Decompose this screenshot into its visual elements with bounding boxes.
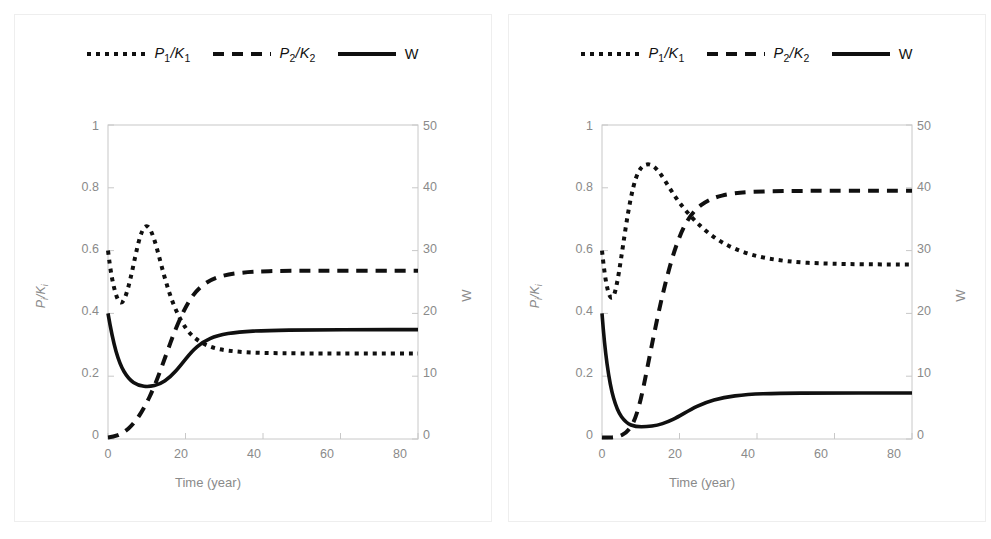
xtick-40: 40: [728, 447, 768, 461]
plot-right: 1 0.8 0.6 0.4 0.2 0 50 40 30 20 10 0 0 2…: [509, 15, 985, 521]
ytick-left-06: 0.6: [555, 242, 593, 256]
ytick-right-50: 50: [917, 119, 957, 133]
series-p2-k2-right: [602, 191, 912, 438]
ytick-right-0: 0: [917, 428, 957, 442]
x-axis-title: Time (year): [175, 475, 241, 490]
xtick-80: 80: [874, 447, 914, 461]
xtick-20: 20: [655, 447, 695, 461]
y-axis-right-title: W: [459, 266, 474, 326]
panel-left: P1/K1 P2/K2 W 1 0.8 0.6 0.4 0.2 0 50 40 …: [14, 14, 492, 522]
series-p1-k1-left: [108, 226, 418, 353]
series-p2-k2-left: [108, 271, 418, 438]
y-axis-left-title: Pi/Ki: [528, 261, 545, 331]
series-p1-k1-right: [602, 164, 912, 297]
xtick-80: 80: [380, 447, 420, 461]
series-w-right: [602, 313, 912, 426]
xtick-20: 20: [161, 447, 201, 461]
y-axis-left-title: Pi/Ki: [34, 261, 51, 331]
y-axis-right-title: W: [953, 266, 968, 326]
ytick-right-20: 20: [423, 304, 463, 318]
ytick-left-02: 0.2: [555, 366, 593, 380]
figure-root: P1/K1 P2/K2 W 1 0.8 0.6 0.4 0.2 0 50 40 …: [0, 0, 991, 539]
ytick-left-06: 0.6: [61, 242, 99, 256]
ytick-left-08: 0.8: [555, 180, 593, 194]
xtick-0: 0: [582, 447, 622, 461]
ytick-right-10: 10: [423, 366, 463, 380]
axis-ticks-left: [108, 125, 418, 439]
ytick-right-20: 20: [917, 304, 957, 318]
ytick-right-30: 30: [917, 242, 957, 256]
ytick-right-50: 50: [423, 119, 463, 133]
ytick-right-10: 10: [917, 366, 957, 380]
plot-left: 1 0.8 0.6 0.4 0.2 0 50 40 30 20 10 0 0 2…: [15, 15, 491, 521]
ytick-left-0: 0: [555, 428, 593, 442]
xtick-0: 0: [88, 447, 128, 461]
ytick-right-40: 40: [917, 180, 957, 194]
ytick-right-40: 40: [423, 180, 463, 194]
ytick-left-0: 0: [61, 428, 99, 442]
ytick-left-1: 1: [61, 119, 99, 133]
ytick-left-04: 0.4: [61, 304, 99, 318]
panel-right: P1/K1 P2/K2 W 1 0.8 0.6 0.4 0.2 0 50 40 …: [508, 14, 986, 522]
ytick-right-0: 0: [423, 428, 463, 442]
ytick-left-1: 1: [555, 119, 593, 133]
xtick-60: 60: [307, 447, 347, 461]
ytick-left-04: 0.4: [555, 304, 593, 318]
series-w-left: [108, 313, 418, 386]
ytick-left-02: 0.2: [61, 366, 99, 380]
ytick-left-08: 0.8: [61, 180, 99, 194]
xtick-60: 60: [801, 447, 841, 461]
ytick-right-30: 30: [423, 242, 463, 256]
x-axis-title: Time (year): [669, 475, 735, 490]
xtick-40: 40: [234, 447, 274, 461]
axis-frame-left: [108, 125, 418, 439]
